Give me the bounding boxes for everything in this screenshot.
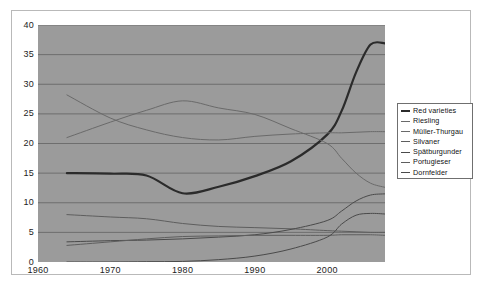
chart-legend: Red varietiesRieslingMüller-ThurgauSilva… — [397, 103, 473, 179]
series-line-0 — [67, 42, 385, 194]
y-tick-label: 5 — [12, 228, 34, 237]
y-tick-label: 35 — [12, 50, 34, 59]
legend-item-label: Silvaner — [413, 138, 440, 146]
y-axis-tick-labels: 0510152025303540 — [10, 25, 34, 262]
legend-line-icon — [401, 152, 410, 153]
legend-item-label: Dornfelder — [413, 169, 448, 177]
chart-root: 0510152025303540 19601970198019902000 Re… — [0, 0, 493, 296]
plot-area — [38, 25, 385, 262]
legend-item[interactable]: Portugieser — [401, 157, 470, 167]
legend-item-label: Müller-Thurgau — [413, 128, 463, 136]
y-tick-label: 20 — [12, 139, 34, 148]
legend-item-label: Riesling — [413, 117, 439, 125]
legend-line-icon — [401, 110, 410, 112]
x-tick-label: 1970 — [100, 266, 121, 275]
y-tick-label: 25 — [12, 109, 34, 118]
legend-item-label: Portugieser — [413, 158, 451, 166]
chart-plot-svg — [38, 25, 385, 262]
legend-line-icon — [401, 121, 410, 122]
legend-line-icon — [401, 131, 410, 132]
x-tick-label: 1990 — [244, 266, 265, 275]
legend-item[interactable]: Riesling — [401, 116, 470, 126]
legend-item[interactable]: Red varieties — [401, 106, 470, 116]
y-tick-label: 15 — [12, 169, 34, 178]
x-axis-tick-labels: 19601970198019902000 — [38, 266, 385, 280]
legend-item[interactable]: Spätburgunder — [401, 147, 470, 157]
y-tick-label: 10 — [12, 198, 34, 207]
x-tick-label: 1960 — [27, 266, 48, 275]
series-line-3 — [67, 215, 385, 233]
legend-line-icon — [401, 162, 410, 163]
series-line-6 — [67, 213, 385, 262]
legend-item[interactable]: Dornfelder — [401, 168, 470, 178]
y-tick-label: 40 — [12, 21, 34, 30]
legend-line-icon — [401, 172, 410, 173]
legend-item[interactable]: Silvaner — [401, 137, 470, 147]
legend-item-label: Red varieties — [413, 107, 456, 115]
legend-line-icon — [401, 141, 410, 142]
series-line-1 — [67, 95, 385, 140]
x-tick-label: 1980 — [172, 266, 193, 275]
y-tick-label: 30 — [12, 80, 34, 89]
x-tick-label: 2000 — [317, 266, 338, 275]
legend-item[interactable]: Müller-Thurgau — [401, 127, 470, 137]
legend-item-label: Spätburgunder — [413, 148, 462, 156]
